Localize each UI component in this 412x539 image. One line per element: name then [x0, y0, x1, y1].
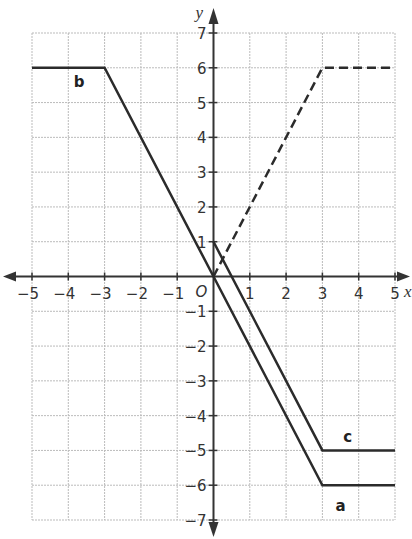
- x-tick-label: 4: [354, 285, 364, 303]
- axes: [3, 8, 410, 537]
- y-tick-label: 7: [197, 25, 207, 43]
- y-tick-label: −1: [184, 303, 206, 321]
- x-tick-label: 5: [390, 285, 400, 303]
- x-tick-label: −4: [53, 285, 75, 303]
- x-tick-label: −3: [90, 285, 112, 303]
- x-axis-right-arrow-icon: [397, 272, 410, 282]
- x-tick-label: −2: [126, 285, 148, 303]
- series-label-b: b: [74, 73, 85, 91]
- y-tick-label: −2: [184, 338, 206, 356]
- y-tick-label: −4: [184, 408, 206, 426]
- y-tick-label: −7: [184, 512, 206, 530]
- x-axis-label: x: [403, 282, 412, 301]
- y-tick-label: 4: [197, 129, 207, 147]
- x-tick-label: 2: [281, 285, 291, 303]
- y-tick-label: 6: [197, 60, 207, 78]
- x-tick-label: 3: [318, 285, 328, 303]
- y-tick-label: 5: [197, 95, 207, 113]
- y-tick-label: 3: [197, 164, 207, 182]
- y-axis-label: y: [194, 3, 204, 22]
- x-tick-label: 1: [245, 285, 255, 303]
- x-axis-left-arrow-icon: [3, 272, 16, 282]
- y-axis-down-arrow-icon: [209, 522, 219, 537]
- origin-label: O: [196, 283, 208, 301]
- y-tick-label: 2: [197, 199, 207, 217]
- series-label-a: a: [335, 497, 345, 515]
- x-tick-label: −1: [162, 285, 184, 303]
- y-tick-label: −6: [184, 477, 206, 495]
- x-tick-label: −5: [17, 285, 39, 303]
- series-label-c: c: [343, 428, 352, 446]
- y-axis-up-arrow-icon: [209, 8, 219, 24]
- y-tick-label: −5: [184, 442, 206, 460]
- y-tick-label: −3: [184, 373, 206, 391]
- coordinate-graph: −5−4−3−2−112345−7−6−5−4−3−2−11234567 abc…: [0, 0, 412, 539]
